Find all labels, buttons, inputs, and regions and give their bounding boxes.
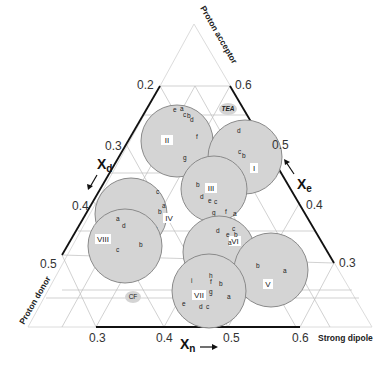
svg-text:d: d — [237, 127, 241, 134]
tick-bottom-0.5: 0.5 — [223, 331, 240, 345]
svg-text:b: b — [256, 262, 260, 269]
svg-text:Xe: Xe — [297, 176, 312, 194]
cluster-VIII: VIII a d b c — [88, 209, 162, 283]
svg-text:d: d — [199, 303, 203, 310]
tick-left-0.4: 0.4 — [72, 199, 89, 213]
tick-top-0.6: 0.6 — [235, 78, 252, 92]
svg-text:d: d — [200, 193, 204, 200]
svg-text:f: f — [210, 278, 212, 285]
svg-text:g: g — [183, 154, 187, 162]
svg-text:TEA: TEA — [222, 105, 235, 112]
svg-text:e: e — [173, 106, 177, 113]
svg-text:Xd: Xd — [97, 156, 112, 174]
tick-right-0.4: 0.4 — [306, 198, 323, 212]
svg-text:IV: IV — [165, 214, 173, 223]
svg-text:f: f — [225, 208, 227, 215]
svg-text:b: b — [219, 280, 223, 287]
svg-text:a: a — [162, 202, 166, 209]
svg-text:a: a — [227, 293, 231, 300]
svg-text:e: e — [226, 231, 230, 238]
svg-text:a: a — [228, 239, 232, 246]
svg-text:a: a — [116, 215, 120, 222]
svg-text:III: III — [208, 184, 215, 193]
svg-text:Xn: Xn — [180, 336, 195, 354]
xe-arrow-icon — [284, 159, 294, 174]
svg-text:a: a — [283, 267, 287, 274]
tick-top-0.2: 0.2 — [137, 78, 154, 92]
single-TEA: TEA — [219, 103, 237, 115]
svg-text:VIII: VIII — [97, 235, 109, 244]
xe-label: Xe — [297, 176, 312, 194]
svg-text:b: b — [242, 152, 246, 159]
axis-name-proton-donor: Proton donor — [17, 274, 53, 326]
svg-text:b: b — [196, 181, 200, 188]
svg-text:b: b — [234, 231, 238, 238]
cluster-VII: VII h i f b g a e d c — [172, 254, 246, 328]
single-CF: CF — [125, 291, 141, 303]
tick-right-0.5: 0.5 — [272, 138, 289, 152]
axis-name-proton-acceptor: Proton acceptor — [198, 4, 240, 66]
tick-bottom-0.6: 0.6 — [292, 331, 309, 345]
svg-text:V: V — [265, 280, 271, 289]
axis-name-strong-dipole: Strong dipole — [318, 333, 373, 343]
svg-text:VI: VI — [231, 237, 239, 246]
svg-text:II: II — [165, 136, 169, 145]
svg-text:I: I — [253, 164, 255, 173]
svg-text:VII: VII — [194, 291, 204, 300]
xd-arrow-icon — [87, 175, 97, 190]
svg-text:g: g — [209, 288, 213, 296]
svg-text:i: i — [191, 277, 192, 284]
tick-bottom-0.4: 0.4 — [156, 331, 173, 345]
svg-text:CF: CF — [129, 293, 138, 300]
svg-text:d: d — [190, 116, 194, 123]
xn-label: Xn — [180, 336, 195, 354]
svg-text:e: e — [182, 300, 186, 307]
xn-arrow-icon — [200, 344, 218, 350]
svg-text:f: f — [196, 133, 198, 140]
svg-text:e: e — [208, 197, 212, 204]
svg-text:d: d — [122, 222, 126, 229]
tick-bottom-0.3: 0.3 — [89, 331, 106, 345]
svg-text:d: d — [216, 227, 220, 234]
svg-text:a: a — [233, 210, 237, 217]
svg-text:b: b — [158, 208, 162, 215]
xd-label: Xd — [97, 156, 112, 174]
cluster-III: III b d e c g f a — [181, 156, 247, 222]
ternary-diagram: II e a c b d f g I d c b a TEA IV c a b … — [0, 0, 388, 365]
tick-right-0.3: 0.3 — [339, 256, 356, 270]
tick-left-0.3: 0.3 — [105, 139, 122, 153]
tick-left-0.5: 0.5 — [40, 257, 57, 271]
svg-text:b: b — [139, 241, 143, 248]
